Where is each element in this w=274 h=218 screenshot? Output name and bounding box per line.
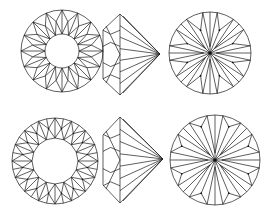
pavilion-bottom-view <box>169 12 251 94</box>
crown-top-view <box>12 118 98 204</box>
crown-top-view <box>21 10 103 92</box>
single-cut-row <box>21 10 251 95</box>
diamond-cut-diagram <box>0 0 274 218</box>
brilliant-cut-row <box>12 115 260 205</box>
pavilion-bottom-view <box>170 115 260 205</box>
side-profile-view <box>103 14 160 95</box>
diamond-figure <box>0 0 274 218</box>
side-profile-view <box>103 117 163 203</box>
